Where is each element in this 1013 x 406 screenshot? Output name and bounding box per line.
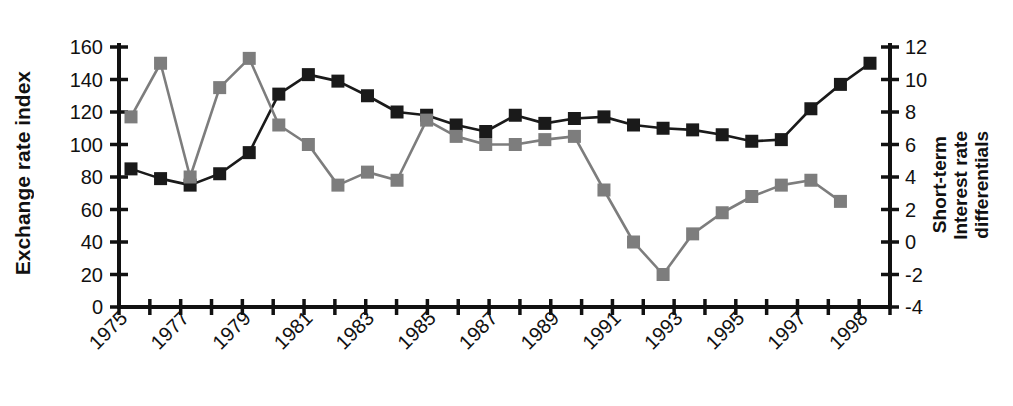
- data-point-marker: [243, 52, 256, 65]
- left-axis-tick-label: 120: [70, 101, 103, 123]
- data-point-marker: [864, 57, 877, 70]
- chart-container: Exchange rate index Short-term Interest …: [0, 0, 1013, 406]
- data-point-marker: [538, 117, 551, 130]
- data-point-marker: [804, 174, 817, 187]
- series-line-2: [131, 58, 840, 274]
- data-point-marker: [479, 125, 492, 138]
- x-axis-tick-label: 1981: [270, 307, 317, 354]
- x-axis-tick-label: 1985: [393, 307, 440, 354]
- data-point-marker: [125, 110, 138, 123]
- data-point-marker: [597, 110, 610, 123]
- data-point-marker: [154, 172, 167, 185]
- x-axis-tick-label: 1995: [701, 307, 748, 354]
- left-axis-tick-label: 140: [70, 69, 103, 91]
- right-axis-tick-label: 2: [905, 199, 916, 221]
- data-point-marker: [804, 102, 817, 115]
- x-axis-tick-label: 1987: [455, 307, 502, 354]
- data-point-marker: [361, 89, 374, 102]
- x-axis-tick-label: 1997: [763, 307, 810, 354]
- right-axis-tick-label: 8: [905, 101, 916, 123]
- data-point-marker: [538, 133, 551, 146]
- data-point-marker: [125, 162, 138, 175]
- data-point-marker: [568, 130, 581, 143]
- right-axis-tick-label: 12: [905, 36, 927, 58]
- data-point-marker: [420, 114, 433, 127]
- data-point-marker: [568, 112, 581, 125]
- data-point-marker: [479, 138, 492, 151]
- left-axis-tick-label: 100: [70, 134, 103, 156]
- data-point-marker: [391, 174, 404, 187]
- data-point-marker: [184, 171, 197, 184]
- data-point-marker: [597, 184, 610, 197]
- plot-area: 020406080100120140160-4-2024681012197519…: [0, 0, 1013, 406]
- series-line-1: [131, 63, 870, 185]
- data-point-marker: [243, 146, 256, 159]
- data-point-marker: [213, 81, 226, 94]
- right-axis-tick-label: 4: [905, 166, 916, 188]
- x-axis-tick-label: 1989: [516, 307, 563, 354]
- right-axis-tick-label: 6: [905, 134, 916, 156]
- left-axis-tick-label: 0: [92, 296, 103, 318]
- data-point-marker: [213, 167, 226, 180]
- data-point-marker: [627, 236, 640, 249]
- data-point-marker: [775, 179, 788, 192]
- data-point-marker: [686, 227, 699, 240]
- data-point-marker: [331, 179, 344, 192]
- data-point-marker: [154, 57, 167, 70]
- data-point-marker: [272, 88, 285, 101]
- x-axis-tick-label: 1983: [331, 307, 378, 354]
- left-axis-tick-label: 80: [81, 166, 103, 188]
- data-point-marker: [450, 119, 463, 132]
- data-point-marker: [716, 206, 729, 219]
- data-point-marker: [657, 268, 670, 281]
- data-point-marker: [302, 68, 315, 81]
- data-point-marker: [775, 133, 788, 146]
- x-axis-tick-label: 1991: [578, 307, 625, 354]
- left-axis-tick-label: 160: [70, 36, 103, 58]
- right-axis-tick-label: -2: [905, 264, 923, 286]
- left-axis-tick-label: 20: [81, 264, 103, 286]
- right-axis-tick-label: 10: [905, 69, 927, 91]
- data-point-marker: [331, 75, 344, 88]
- data-point-marker: [686, 123, 699, 136]
- left-axis-tick-label: 60: [81, 199, 103, 221]
- right-axis-tick-label: 0: [905, 231, 916, 253]
- data-point-marker: [716, 128, 729, 141]
- data-point-marker: [745, 135, 758, 148]
- x-axis-tick-label: 1979: [208, 307, 255, 354]
- data-point-marker: [302, 138, 315, 151]
- data-point-marker: [509, 109, 522, 122]
- left-axis-tick-label: 40: [81, 231, 103, 253]
- x-axis-tick-label: 1998: [825, 307, 872, 354]
- data-point-marker: [657, 122, 670, 135]
- data-point-marker: [391, 106, 404, 119]
- data-point-marker: [834, 78, 847, 91]
- data-point-marker: [361, 166, 374, 179]
- data-point-marker: [450, 130, 463, 143]
- data-point-marker: [627, 119, 640, 132]
- right-axis-tick-label: -4: [905, 296, 923, 318]
- x-axis-tick-label: 1993: [640, 307, 687, 354]
- data-point-marker: [834, 195, 847, 208]
- data-point-marker: [509, 138, 522, 151]
- data-point-marker: [745, 190, 758, 203]
- x-axis-tick-label: 1977: [146, 307, 193, 354]
- data-point-marker: [272, 119, 285, 132]
